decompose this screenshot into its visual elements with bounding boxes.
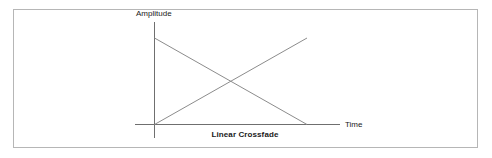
figure-caption-text: Linear Crossfade [212,130,279,139]
figure-caption: Linear Crossfade [0,131,492,139]
y-axis-label: Amplitude [136,10,172,18]
x-axis-label: Time [345,121,362,129]
figure-container: Amplitude Time Linear Crossfade [0,0,492,158]
